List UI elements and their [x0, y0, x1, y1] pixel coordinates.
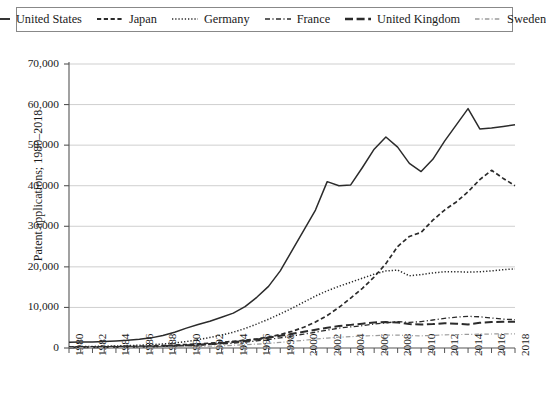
- series-line-japan: [69, 170, 515, 347]
